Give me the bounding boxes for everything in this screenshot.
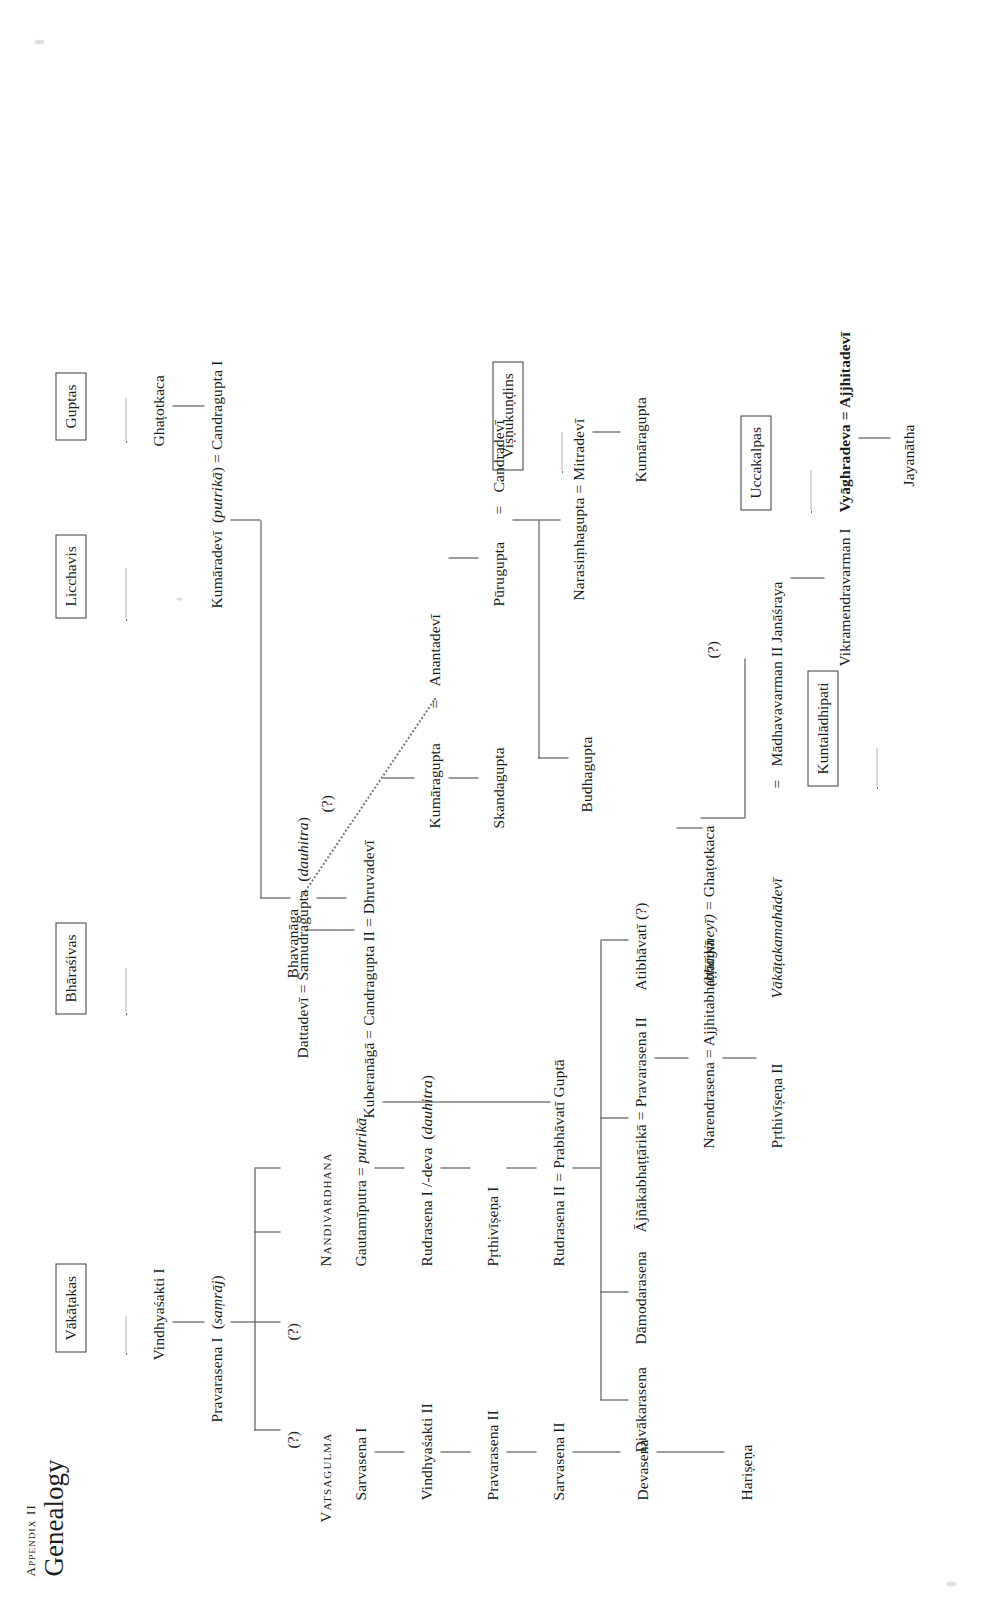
person-vyaghradeva: Vyāghradeva = Ajjhitadevī [836, 332, 852, 512]
line-child-damodarasena [600, 1291, 628, 1292]
line-devasena-down [656, 1451, 724, 1452]
marriage-symbol-purugupta: = [490, 505, 506, 514]
person-candradevi: Candradevī [490, 420, 506, 492]
person-kumaragupta-2: Kumāragupta [632, 397, 648, 482]
person-pravarasena-1: Pravarasena I (saṃrāj) [208, 1275, 224, 1422]
marriage-symbol: = [835, 411, 852, 420]
person-unknown-3: (?) [318, 794, 334, 812]
line-child-budhagupta [538, 757, 568, 758]
person-name: Rudrasena II [549, 1185, 566, 1266]
person-budhagupta: Budhagupta [578, 736, 594, 812]
dynasty-box-label: Guptas [61, 384, 78, 428]
dynasty-box-licchavis: Licchavis [55, 534, 86, 618]
scan-speck [34, 39, 44, 44]
person-pravarasena-2-nandivardhana: Pravarasena II [631, 1016, 648, 1106]
person-dhruvadevi: Dhruvadevī [359, 840, 376, 914]
line-pravarasena2n-down [654, 1057, 688, 1058]
line-ghatotkaca-down [172, 405, 204, 406]
dotted-link-licchavis [125, 568, 126, 620]
dotted-link-kuntaladhipati [876, 748, 877, 788]
person-sarvasena-1: Sarvasena I [352, 1427, 368, 1500]
scan-speck [176, 597, 182, 600]
marriage-symbol: = [569, 484, 586, 493]
marriage-symbol: = [549, 1172, 566, 1181]
person-kuberanaga: Kuberanāgā = Candragupta II = Dhruvadevī [360, 840, 376, 1118]
line-child-q1 [254, 1429, 280, 1430]
line-samudragupta-down [316, 897, 346, 898]
dynasty-box-label: Bhāraśivas [61, 934, 78, 1002]
line-child-q3 [254, 1231, 280, 1232]
person-unknown-2: (?) [284, 1322, 300, 1340]
epithet-dauhitra: dauhitra [293, 822, 310, 876]
line-candragupta1-to-samudragupta [260, 520, 261, 898]
dotted-link-vakatakas [125, 1316, 126, 1354]
person-damodarasena: Dāmodarasena [632, 1251, 648, 1344]
line-ajjhitabhattarika-to-uccakalpas [744, 658, 745, 818]
line-sarvasena1-down [374, 1451, 404, 1452]
page-title: Appendix II Genealogy [22, 1459, 69, 1576]
line-candragupta1-down [230, 519, 260, 520]
person-rudrasena-1: Rudrasena I /-deva (dauhitra) [418, 1074, 434, 1266]
person-name: Narendrasena [699, 1062, 716, 1148]
line-narendrasena-down [722, 1057, 756, 1058]
line-madhavavarman2-down [790, 577, 824, 578]
person-ajjhitadevi: Ajjhitadevī [835, 332, 852, 408]
line-kumaragupta1-down [448, 777, 478, 778]
marriage-symbol-vakatakamahadevi: = [768, 779, 784, 788]
person-anantadevi: Anantadevī [426, 614, 442, 686]
dotted-link-visnukundins [561, 432, 562, 472]
line-pravarasena2v-down [506, 1451, 536, 1452]
person-name: Kumāradevī [207, 530, 224, 608]
branch-header-nandivardhana: Nandivardhana [318, 1152, 334, 1266]
line-vindhyasakti1-down [172, 1321, 204, 1322]
person-name: Vākāṭakamahādevī [767, 878, 784, 998]
marriage-symbol: = [293, 984, 310, 993]
line-child-divakarasena [600, 1399, 628, 1400]
line-child-q2 [254, 1321, 280, 1322]
person-prabhavati-gupta: Prabhāvatī Guptā [549, 1059, 566, 1169]
line-samudragupta-up [260, 897, 290, 898]
dynasty-box-label: Vākāṭakas [61, 1275, 78, 1340]
person-kumaragupta-1: Kumāragupta [426, 743, 442, 828]
person-candragupta-2: Candragupta II [359, 931, 376, 1026]
line-anantadevi-down [448, 557, 478, 558]
person-name: Pūrugupta [489, 541, 506, 606]
title-text: Genealogy [39, 1459, 69, 1576]
marriage-symbol-2: = [359, 918, 376, 927]
person-jayanatha: Jayanātha [900, 424, 916, 486]
person-unknown-4: (?) [704, 640, 720, 658]
person-madhavavarman-2: Mādhavavarman II Janāśraya [768, 581, 784, 766]
person-vikramendravarman-1: Vikramendravarman I [836, 528, 852, 666]
epithet-bhagineyi: bhāgineyī [699, 919, 716, 981]
line-bhavanaga-to-putrika [336, 929, 354, 930]
person-sarvasena-2: Sarvasena II [550, 1422, 566, 1500]
line-child-gautamiputra [254, 1167, 280, 1168]
person-ajnakabhattarika: Ājñākabhaṭṭārikā = Pravarasena II [632, 1016, 648, 1232]
marriage-symbol: = [207, 454, 224, 463]
appendix-label: Appendix II [22, 1459, 38, 1576]
person-vindhyasakti-1: Vindhyaśakti I [150, 1268, 166, 1360]
dynasty-box-label: Kuntalādhipati [813, 682, 830, 774]
line-vindhyasakti2-down [440, 1451, 470, 1452]
person-name: Kuberanāgā [359, 1042, 376, 1118]
line-kuberanaga-to-prabhavati [382, 1101, 550, 1102]
dotted-link-bharasivas [125, 968, 126, 1014]
person-name: Gautamīputra [351, 1180, 368, 1266]
person-harisena: Hariṣeṇa [738, 1444, 754, 1500]
line-child-pravarasena2n [600, 1117, 628, 1118]
line-sarvasena2-down [572, 1451, 620, 1452]
person-unknown-1: (?) [284, 1430, 300, 1448]
dynasty-box-vakatakas: Vākāṭakas [55, 1263, 86, 1352]
line-vyaghradeva-down [858, 437, 890, 438]
person-putrika: putrikā [351, 1117, 368, 1162]
dynasty-box-label: Licchavis [61, 546, 78, 606]
epithet-samraj: saṃrāj [207, 1280, 224, 1324]
marriage-symbol: = [699, 1049, 716, 1058]
person-name: Pṛthivīṣeṇa II [767, 1063, 784, 1148]
epithet-dauhitra: dauhitra [417, 1080, 434, 1134]
marriage-symbol: = [359, 1029, 376, 1038]
dotted-link-guptas [125, 398, 126, 442]
person-divakarasena: Divākarasena [632, 1366, 648, 1452]
dotted-link-uccakalpas [810, 470, 811, 512]
person-prthivisena-2: Pṛthivīṣeṇa II [768, 1063, 784, 1148]
